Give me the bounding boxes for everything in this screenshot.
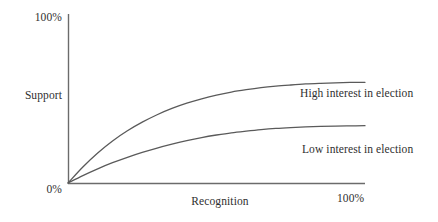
x-axis-title: Recognition	[160, 195, 280, 208]
y-axis-min-tick-label: 0%	[8, 183, 62, 196]
chart-plot-area	[0, 0, 438, 222]
series-annotation-low-interest: Low interest in election	[302, 143, 413, 156]
y-axis-title: Support	[8, 89, 62, 102]
x-axis-max-tick-label: 100%	[337, 192, 364, 205]
series-annotation-high-interest: High interest in election	[300, 87, 413, 100]
chart-figure: 100% Support 0% Recognition 100% High in…	[0, 0, 438, 222]
y-axis-max-tick-label: 100%	[8, 11, 62, 24]
